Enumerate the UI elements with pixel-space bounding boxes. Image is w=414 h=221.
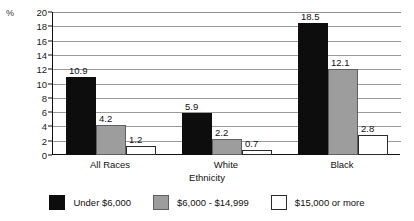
y-axis-ticks: 20181614121086420	[0, 0, 52, 221]
legend-item: $6,000 - $14,999	[153, 195, 249, 210]
y-axis-tick-label: 6	[42, 108, 47, 117]
y-axis-tick-label: 20	[36, 8, 47, 17]
bar	[358, 135, 388, 155]
legend-swatch	[271, 195, 287, 210]
y-axis-tick-label: 18	[36, 22, 47, 31]
bar-value-label: 5.9	[185, 102, 198, 112]
bar-value-label: 18.5	[301, 12, 320, 22]
bar	[242, 150, 272, 155]
bar-value-label: 4.2	[99, 114, 112, 124]
bar-group: 18.512.12.8	[298, 12, 388, 155]
bar-value-label: 10.9	[69, 66, 88, 76]
plot-area: 10.94.21.25.92.20.718.512.12.8	[52, 12, 400, 155]
y-axis-tick-label: 16	[36, 36, 47, 45]
x-axis-category-label: Black	[272, 159, 412, 170]
bar	[298, 23, 328, 155]
bar-group: 10.94.21.2	[66, 12, 156, 155]
legend-swatch	[153, 195, 169, 210]
legend-item: $15,000 or more	[271, 195, 365, 210]
legend-swatch	[49, 195, 65, 210]
legend-label: Under $6,000	[73, 197, 131, 208]
bar	[66, 77, 96, 155]
bar-value-label: 0.7	[245, 139, 258, 149]
y-axis-tick-label: 12	[36, 65, 47, 74]
bar-chart: % 20181614121086420 10.94.21.25.92.20.71…	[0, 0, 414, 221]
y-axis-tick-label: 8	[42, 93, 47, 102]
bar	[212, 139, 242, 155]
y-axis-tick-label: 14	[36, 50, 47, 59]
bar	[328, 69, 358, 156]
bar-value-label: 2.8	[361, 124, 374, 134]
bar	[96, 125, 126, 155]
bar	[182, 113, 212, 155]
y-axis-tick-label: 4	[42, 122, 47, 131]
y-axis-tick-label: 2	[42, 136, 47, 145]
legend-label: $15,000 or more	[295, 197, 365, 208]
bar-value-label: 2.2	[215, 128, 228, 138]
bar	[126, 146, 156, 155]
legend-label: $6,000 - $14,999	[177, 197, 249, 208]
y-axis-tick-label: 10	[36, 79, 47, 88]
chart-legend: Under $6,000$6,000 - $14,999$15,000 or m…	[0, 190, 414, 214]
x-axis-title: Ethnicity	[0, 172, 414, 183]
bar-groups: 10.94.21.25.92.20.718.512.12.8	[53, 12, 401, 155]
legend-item: Under $6,000	[49, 195, 131, 210]
bar-value-label: 12.1	[331, 58, 350, 68]
bar-group: 5.92.20.7	[182, 12, 272, 155]
bar-value-label: 1.2	[129, 135, 142, 145]
